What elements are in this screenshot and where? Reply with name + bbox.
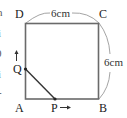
point-q-dot <box>24 67 27 70</box>
arrow-right-icon <box>60 106 71 110</box>
edge-fragment: - <box>0 86 2 98</box>
vertex-a-label: A <box>15 101 24 115</box>
edge-fragment: 0 <box>0 47 2 59</box>
edge-fragment: n <box>0 6 3 18</box>
edge-text-fragments: n i 0 i - <box>0 6 3 98</box>
vertex-b-label: B <box>99 101 107 115</box>
point-q-label: Q <box>13 62 22 76</box>
point-p-label: P <box>51 101 58 115</box>
right-dimension-label: 6cm <box>104 56 123 68</box>
top-dimension-label: 6cm <box>51 7 70 19</box>
segment-qp <box>26 69 56 99</box>
square-diagram: n i 0 i - D C A B Q P 6cm 6cm <box>0 0 127 118</box>
vertex-d-label: D <box>15 7 24 21</box>
square-abcd <box>26 24 99 100</box>
arrow-up-icon <box>15 50 19 61</box>
edge-fragment: i <box>0 68 1 80</box>
edge-fragment: i <box>0 27 1 39</box>
vertex-c-label: C <box>99 7 107 21</box>
